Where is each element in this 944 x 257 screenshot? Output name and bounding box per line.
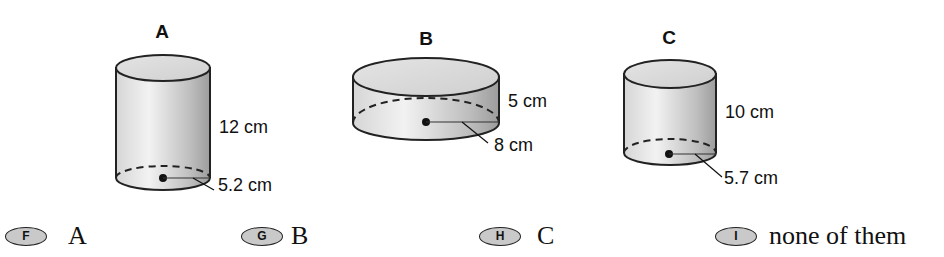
- answer-text-i: none of them: [769, 221, 906, 251]
- answer-choice-h[interactable]: H C: [479, 221, 554, 251]
- answer-text-f: A: [68, 221, 87, 251]
- cylinder-a-label: A: [155, 21, 169, 42]
- answer-text-h: C: [537, 221, 554, 251]
- answer-choice-g[interactable]: G B: [241, 221, 308, 251]
- cylinder-b: B 5 cm 8 cm: [353, 28, 547, 155]
- cylinder-b-label: B: [419, 28, 433, 49]
- cylinder-c: C 10 cm 5.7 cm: [624, 27, 778, 188]
- cylinder-c-radius: 5.7 cm: [724, 168, 778, 188]
- answer-bubble-h[interactable]: H: [479, 227, 521, 246]
- cylinder-b-height: 5 cm: [508, 91, 547, 111]
- answer-choices: F A G B H C I none of them: [0, 221, 944, 251]
- answer-bubble-g[interactable]: G: [241, 227, 283, 246]
- answer-bubble-f[interactable]: F: [5, 227, 47, 246]
- cylinder-a-radius: 5.2 cm: [218, 175, 272, 195]
- cylinder-a-height: 12 cm: [219, 117, 268, 137]
- answer-choice-f[interactable]: F A: [5, 221, 87, 251]
- cylinder-c-label: C: [662, 27, 676, 48]
- answer-bubble-i[interactable]: I: [715, 227, 757, 246]
- answer-text-g: B: [291, 221, 308, 251]
- cylinder-b-radius: 8 cm: [494, 135, 533, 155]
- cylinder-c-height: 10 cm: [725, 102, 774, 122]
- cylinders-figure: A 12 cm 5.2 cm B 5 cm 8 cm C 10 cm 5.7 c…: [0, 0, 944, 210]
- cylinder-a: A 12 cm 5.2 cm: [116, 21, 272, 195]
- answer-choice-i[interactable]: I none of them: [715, 221, 906, 251]
